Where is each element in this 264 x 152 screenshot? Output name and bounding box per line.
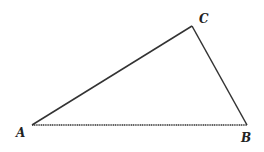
- vertex-label-a: A: [15, 126, 25, 140]
- triangle-diagram: A B C: [0, 0, 264, 152]
- vertex-label-c: C: [199, 12, 209, 26]
- side-cb: [192, 26, 247, 125]
- side-ac: [32, 26, 192, 125]
- vertex-label-b: B: [240, 131, 251, 145]
